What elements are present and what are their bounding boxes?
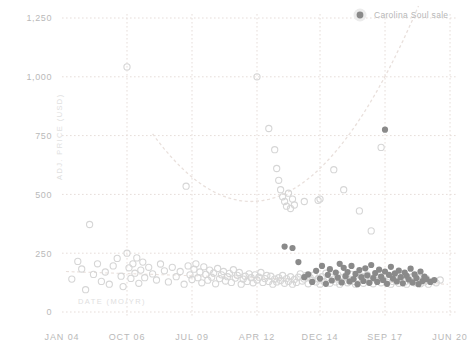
data-point[interactable] [382,127,388,133]
data-point[interactable] [376,267,382,273]
data-point[interactable] [345,269,351,275]
x-axis-tick-label: JAN 04 [45,332,80,342]
data-point[interactable] [408,266,414,272]
x-axis-tick-label: JUN 20 [432,332,467,342]
data-point[interactable] [169,264,175,270]
data-point[interactable] [356,267,362,273]
data-point[interactable] [396,268,402,274]
data-point[interactable] [313,268,319,274]
data-point[interactable] [132,270,138,276]
data-point[interactable] [368,262,374,268]
x-axis-tick-label: JUL 09 [175,332,209,342]
data-point[interactable] [126,265,132,271]
data-point[interactable] [274,165,280,171]
x-axis-tick-label: APR 12 [239,332,275,342]
data-point[interactable] [90,271,96,277]
data-point[interactable] [75,258,81,264]
scatter-chart: 02505007501,0001,250JAN 04OCT 06JUL 09AP… [0,0,468,355]
data-point[interactable] [130,261,136,267]
data-point[interactable] [142,275,148,281]
data-point[interactable] [153,277,159,283]
y-axis-tick-label: 500 [35,190,52,200]
series-carolina-soul-sale [282,127,438,288]
x-axis-tick-label: SEP 17 [367,332,403,342]
data-point[interactable] [282,244,288,250]
data-point[interactable] [289,196,295,202]
data-point[interactable] [98,278,104,284]
x-axis-tick-label: DEC 14 [302,332,339,342]
y-axis-title: ADJ. PRICE (USD) [55,93,64,180]
chart-canvas: 02505007501,0001,250JAN 04OCT 06JUL 09AP… [0,0,468,355]
data-point[interactable] [325,272,331,278]
data-point[interactable] [354,281,360,287]
data-point[interactable] [69,276,75,282]
data-point[interactable] [199,280,205,286]
data-point[interactable] [157,261,163,267]
data-point[interactable] [295,259,301,265]
data-point[interactable] [165,279,171,285]
data-point[interactable] [331,167,337,173]
data-point[interactable] [368,228,374,234]
data-point[interactable] [183,183,189,189]
data-point[interactable] [181,281,187,287]
data-point[interactable] [305,271,311,277]
data-point[interactable] [301,198,307,204]
data-point[interactable] [146,264,152,270]
data-point[interactable] [87,221,93,227]
data-point[interactable] [134,255,140,261]
data-point[interactable] [364,272,370,278]
data-point[interactable] [378,144,384,150]
data-point[interactable] [83,287,89,293]
data-point[interactable] [161,268,167,274]
data-point[interactable] [384,281,390,287]
data-point[interactable] [341,187,347,193]
y-axis-tick-label: 0 [46,307,52,317]
legend-marker-icon [357,12,364,19]
data-point[interactable] [79,266,85,272]
data-point[interactable] [339,279,345,285]
y-axis-tick-label: 750 [35,131,52,141]
data-point[interactable] [177,268,183,274]
data-point[interactable] [400,280,406,286]
data-point[interactable] [201,264,207,270]
data-point[interactable] [106,281,112,287]
data-point[interactable] [215,265,221,271]
data-point[interactable] [319,263,325,269]
data-point[interactable] [272,147,278,153]
data-point[interactable] [317,276,323,282]
x-axis-title: DATE (MO/YR) [78,297,146,306]
data-point[interactable] [291,202,297,208]
data-point[interactable] [323,281,329,287]
data-point[interactable] [388,264,394,270]
data-point[interactable] [114,255,120,261]
data-point[interactable] [327,266,333,272]
data-point[interactable] [138,267,144,273]
data-point[interactable] [276,177,282,183]
data-point[interactable] [110,263,116,269]
data-point[interactable] [193,261,199,267]
data-point[interactable] [362,265,368,271]
series-other-sale [69,64,444,293]
data-point[interactable] [413,275,419,281]
y-axis-tick-label: 1,000 [26,72,52,82]
data-point[interactable] [120,284,126,290]
data-point[interactable] [348,263,354,269]
y-axis-tick-label: 250 [35,249,52,259]
data-point[interactable] [360,278,366,284]
data-point[interactable] [185,263,191,269]
data-point[interactable] [278,187,284,193]
data-point[interactable] [289,245,295,251]
data-point[interactable] [94,261,100,267]
data-point[interactable] [230,267,236,273]
data-point[interactable] [136,280,142,286]
data-point[interactable] [266,125,272,131]
data-point[interactable] [118,273,124,279]
data-point[interactable] [140,259,146,265]
data-point[interactable] [309,279,315,285]
data-point[interactable] [431,277,437,283]
data-point[interactable] [329,277,335,283]
data-point[interactable] [417,268,423,274]
data-point[interactable] [356,208,362,214]
data-point[interactable] [374,279,380,285]
data-point[interactable] [102,269,108,275]
